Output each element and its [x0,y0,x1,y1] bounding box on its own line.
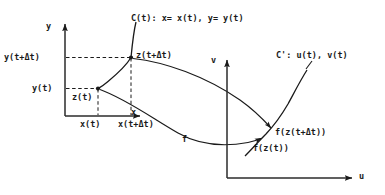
tick-label-x-of-t-plus-dt: x(t+Δt) [118,120,154,129]
tick-label-x-of-t: x(t) [80,120,100,129]
curve-C-prime-leader [306,61,312,69]
curve-C-of-t [98,22,136,89]
curve-label-C-prime: C': u(t), v(t) [276,51,348,60]
axis-label-y: y [46,22,51,31]
axis-label-x: x [131,108,136,117]
point-label-z-of-t-plus-dt: z(t+Δt) [136,51,172,60]
uv-axes-group [227,60,352,178]
point-label-z-of-t: z(t) [72,93,92,102]
axis-label-v: v [211,56,216,65]
curve-label-C-of-t: C(t): x= x(t), y= y(t) [131,14,244,23]
guide-lines-group [66,58,131,116]
tick-label-y-of-t: y(t) [32,84,52,93]
point-label-f-of-z-of-t: f(z(t)) [253,144,289,153]
dot-z-of-t [96,87,100,91]
xy-axes-group [65,24,140,116]
axis-label-u: u [359,172,364,181]
map-label-f: f [182,135,187,144]
point-label-f-of-z-of-t-plus-dt: f(z(t+Δt)) [275,128,326,137]
dot-z-of-t-plus-dt [129,55,133,59]
diagram-vector-art [0,0,385,195]
tick-label-y-of-t-plus-dt: y(t+Δt) [4,53,40,62]
diagram-canvas: y x C(t): x= x(t), y= y(t) y(t+Δt) y(t) … [0,0,385,195]
